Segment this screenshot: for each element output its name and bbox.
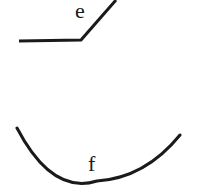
label-f: f: [88, 151, 96, 176]
diagram-canvas: e f: [0, 0, 197, 195]
bent-line-e: [19, 0, 116, 41]
label-e: e: [75, 0, 85, 23]
arc-f: [17, 128, 180, 183]
